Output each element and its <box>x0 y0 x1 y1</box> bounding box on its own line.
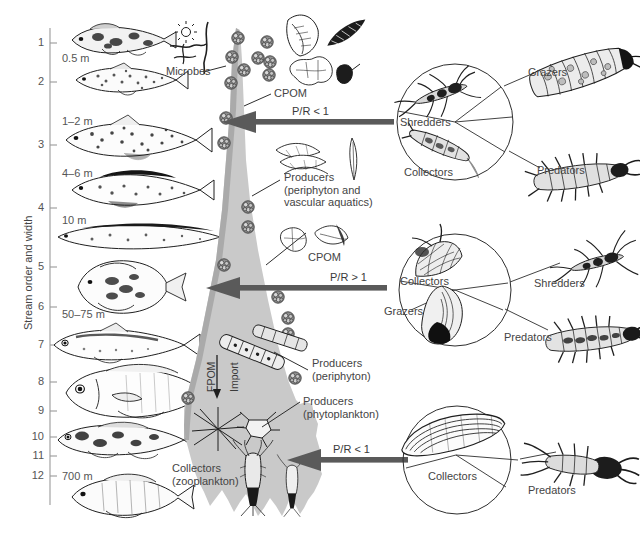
circle3-label-predators: Predators <box>528 484 576 496</box>
collector-mussel-illustration <box>398 408 508 460</box>
predator-illustration-2 <box>543 308 640 367</box>
circle1-label-shredders: Shredders <box>400 116 451 128</box>
circle2-label-shredders: Shredders <box>534 277 585 289</box>
grazer-snail-illustration <box>422 286 463 344</box>
circle3-label-collectors: Collectors <box>428 470 477 482</box>
macroinvertebrate-layer <box>0 0 640 535</box>
circle2-label-collectors: Collectors <box>400 275 449 287</box>
circle1-label-predators: Predators <box>537 164 585 176</box>
collector-netspinner-illustration <box>412 224 462 276</box>
circle2-label-predators: Predators <box>504 331 552 343</box>
circle1-label-collectors: Collectors <box>404 166 453 178</box>
circle2-label-grazers: Grazers <box>384 305 423 317</box>
circle1-label-grazers: Grazers <box>528 66 567 78</box>
river-continuum-diagram: Stream order and width 1 2 3 4 5 6 7 8 9… <box>0 0 640 535</box>
